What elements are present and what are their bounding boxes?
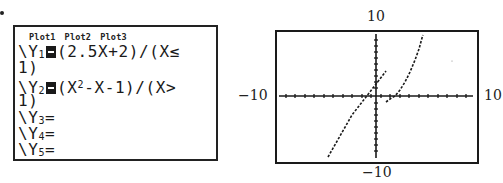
stray-pixel: [451, 60, 452, 61]
y1-curve: [328, 71, 386, 157]
y2-curve: [386, 35, 423, 102]
graph-screen: [0, 0, 503, 183]
graph-frame: [276, 31, 478, 163]
